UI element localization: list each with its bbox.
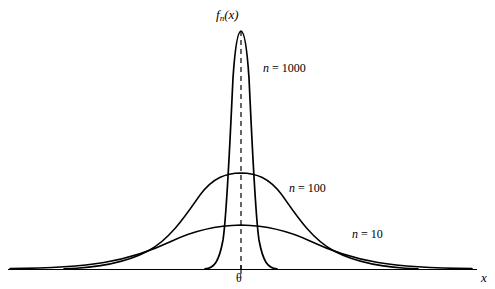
x-axis-label: x [481, 271, 487, 284]
series-label-n-10: n = 10 [352, 228, 383, 240]
series-label-variable: n [352, 227, 358, 241]
figure-canvas: fn(x) n = 1000 n = 100 n = 10 θ x [0, 0, 495, 289]
theta-tick-label: θ [236, 272, 242, 284]
density-plot [0, 0, 495, 289]
y-axis-label: fn(x) [216, 8, 239, 23]
series-label-n-100: n = 100 [289, 182, 326, 194]
series-label-variable: n [289, 181, 295, 195]
series-label-n-1000: n = 1000 [263, 62, 306, 74]
series-label-variable: n [263, 61, 269, 75]
y-axis-label-argument: (x) [224, 7, 238, 22]
